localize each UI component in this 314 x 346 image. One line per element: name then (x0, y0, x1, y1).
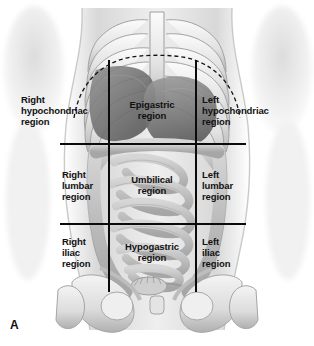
region-label-right-iliac: Right iliac region (62, 236, 108, 269)
region-label-right-hypochondriac: Right hypochondriac region (21, 94, 109, 127)
torso-illustration (0, 0, 314, 346)
abdominal-regions-figure: Right hypochondriac region Epigastric re… (0, 0, 314, 346)
region-label-umbilical: Umbilical region (110, 174, 194, 196)
obturator-foramen-left (181, 292, 213, 320)
left-midclavicular-line (195, 60, 197, 292)
obturator-foramen-right (101, 292, 133, 320)
region-label-left-hypochondriac: Left hypochondriac region (202, 94, 292, 127)
subcostal-line (60, 143, 246, 145)
region-label-right-lumbar: Right lumbar region (62, 169, 108, 202)
panel-letter: A (10, 318, 19, 332)
pubic-symphysis (150, 296, 164, 314)
region-label-left-lumbar: Left lumbar region (202, 169, 250, 202)
intertubercular-line (60, 223, 246, 225)
femur-head-right (56, 286, 85, 329)
femur-head-left (230, 286, 259, 329)
region-label-hypogastric: Hypogastric region (110, 241, 194, 263)
region-label-left-iliac: Left iliac region (202, 236, 250, 269)
region-label-epigastric: Epigastric region (110, 99, 194, 121)
